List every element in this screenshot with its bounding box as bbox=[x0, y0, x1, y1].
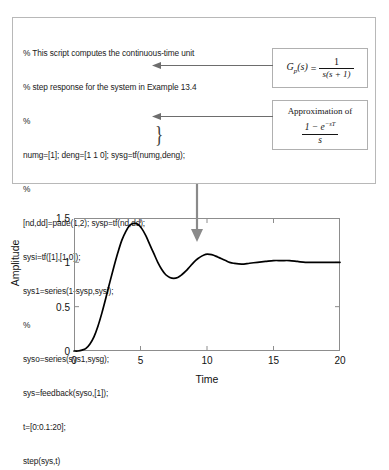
gp-fraction: 1 s(s + 1) bbox=[319, 57, 353, 80]
zoh-numerator: 1 − e−sT bbox=[302, 121, 339, 134]
gp-denominator: s(s + 1) bbox=[319, 69, 353, 79]
x-axis-title: Time bbox=[74, 373, 340, 385]
x-axis-tick-labels: 05101520 bbox=[0, 355, 389, 369]
x-tick-label: 5 bbox=[138, 355, 144, 366]
zoh-denominator: s bbox=[315, 135, 325, 146]
plant-transfer-function-box: Gp(s) = 1 s(s + 1) bbox=[272, 48, 368, 88]
y-tick-label: 0.5 bbox=[56, 301, 70, 312]
x-tick-label: 10 bbox=[201, 355, 212, 366]
code-line: step(sys,t) bbox=[23, 456, 233, 467]
gp-lhs: Gp(s) bbox=[286, 61, 307, 75]
x-tick-label: 20 bbox=[334, 355, 345, 366]
step-response-plot: 00.511.5 05101520 Time Amplitude bbox=[0, 196, 389, 399]
arrow-to-plant-definition bbox=[152, 61, 274, 70]
x-tick-label: 0 bbox=[71, 355, 77, 366]
arrow-to-zoh-approximation bbox=[152, 112, 274, 121]
gp-numerator: 1 bbox=[331, 57, 342, 69]
zoh-fraction: 1 − e−sT s bbox=[302, 121, 339, 146]
code-line: t=[0:0.1:20]; bbox=[23, 422, 233, 433]
code-grouping-brace: } bbox=[155, 123, 162, 146]
x-tick-label: 15 bbox=[268, 355, 279, 366]
y-axis-title: Amplitude bbox=[9, 228, 21, 298]
approximation-caption: Approximation of bbox=[273, 101, 367, 116]
y-tick-label: 1 bbox=[64, 257, 70, 268]
series-line bbox=[74, 223, 340, 351]
gp-equals: = bbox=[311, 63, 317, 74]
code-line: numg=[1]; deng=[1 1 0]; sysg=tf(numg,den… bbox=[23, 150, 233, 161]
y-tick-label: 1.5 bbox=[56, 213, 70, 224]
code-line: % step response for the system in Exampl… bbox=[23, 82, 233, 93]
zoh-approximation-box: Approximation of 1 − e−sT s bbox=[272, 100, 368, 150]
code-line: % This script computes the continuous-ti… bbox=[23, 48, 233, 59]
